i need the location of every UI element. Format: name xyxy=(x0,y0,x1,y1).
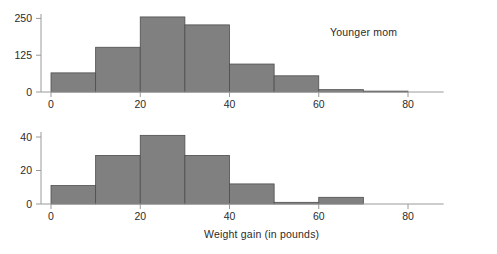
y-tick-label: 250 xyxy=(14,12,32,24)
y-tick-label: 0 xyxy=(26,86,32,98)
histogram-bar xyxy=(140,135,185,204)
y-tick-label: 40 xyxy=(20,131,32,143)
histogram-bar xyxy=(319,197,364,204)
y-tick-label: 20 xyxy=(20,164,32,176)
histogram-bar xyxy=(96,47,141,92)
x-tick-label: 0 xyxy=(48,98,54,110)
younger-mom-title: Younger mom xyxy=(330,26,397,38)
histogram-bar xyxy=(230,64,275,92)
histogram-bar xyxy=(185,155,230,204)
histogram-figure: 0125250020406080 Younger mom 02040020406… xyxy=(0,0,497,254)
x-tick-label: 60 xyxy=(313,98,325,110)
chart-panel-younger-mom: 0125250020406080 Younger mom xyxy=(0,0,497,118)
histogram-bar xyxy=(185,25,230,92)
x-tick-label: 80 xyxy=(402,98,414,110)
histogram-bar xyxy=(274,76,319,92)
histogram-bar xyxy=(140,17,185,92)
x-tick-label: 40 xyxy=(224,98,236,110)
x-tick-label: 60 xyxy=(313,210,325,222)
histogram-bar xyxy=(230,184,275,204)
x-tick-label: 20 xyxy=(134,98,146,110)
histogram-bar xyxy=(51,186,96,204)
younger-mom-histogram: 0125250020406080 xyxy=(0,0,497,118)
histogram-bar xyxy=(96,155,141,204)
x-axis-label: Weight gain (in pounds) xyxy=(204,228,319,240)
x-tick-label: 40 xyxy=(224,210,236,222)
x-tick-label: 20 xyxy=(134,210,146,222)
y-tick-label: 125 xyxy=(14,49,32,61)
x-tick-label: 80 xyxy=(402,210,414,222)
y-tick-label: 0 xyxy=(26,198,32,210)
x-tick-label: 0 xyxy=(48,210,54,222)
histogram-bar xyxy=(51,73,96,92)
